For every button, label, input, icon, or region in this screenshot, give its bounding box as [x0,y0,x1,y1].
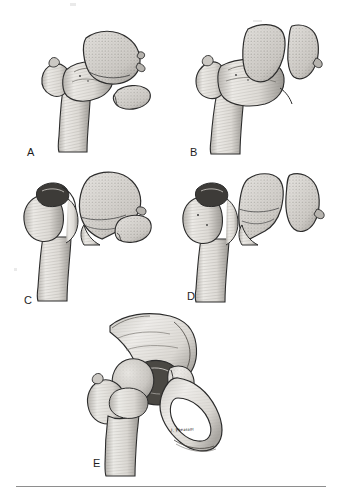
head-fragment-medial-d [239,174,283,245]
head-fragment-a [113,86,150,110]
panel-c: C [18,163,168,303]
panel-label-c: C [24,295,32,306]
femur-illustration-a [18,18,168,158]
panel-d: D [180,163,335,303]
femoral-shaft-e [105,412,139,476]
hip-joint-illustration-e: J. Pheasant [78,308,253,478]
panel-b: B [180,18,330,158]
femur-illustration-b [180,18,330,158]
head-fragment-lateral-d [286,174,324,232]
femoral-head-lateral-fragment-b [288,25,322,79]
femur-illustration-c [18,163,168,303]
femur-illustration-d [180,163,335,303]
panel-label-e: E [93,458,101,469]
pubis-ischium-e [160,378,222,452]
panel-label-b: B [190,147,198,158]
scan-artifact-speck [14,268,17,271]
femoral-shaft-c [37,237,71,301]
femoral-neck-e [109,388,148,418]
femoral-shaft-d [195,239,229,302]
panel-e: J. Pheasant E [78,308,253,478]
panel-label-d: D [187,291,195,302]
panel-a: A [18,18,168,158]
head-fragment-c [115,215,151,242]
bottom-horizontal-rule [16,486,326,487]
panel-label-a: A [27,147,35,158]
femoral-head-a [83,31,145,84]
scan-artifact-speck [70,3,76,6]
figure-container: A [0,0,341,494]
